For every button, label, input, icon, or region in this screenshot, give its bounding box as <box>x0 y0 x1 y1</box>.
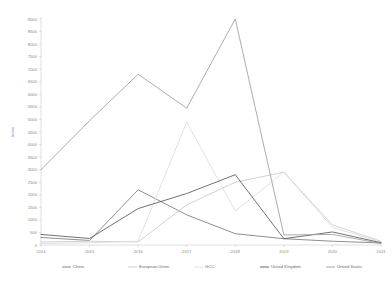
x-axis-tick-labels: 20142015201620172018201920202021 <box>36 249 386 254</box>
y-tick-label: 6000 <box>28 92 38 97</box>
y-tick-label: 7000 <box>28 67 38 72</box>
series-line-european-union <box>41 172 381 242</box>
legend-label-china: China <box>73 264 85 269</box>
x-tick-label: 2020 <box>328 249 338 254</box>
series-line-united-states <box>41 19 381 243</box>
y-tick-label: 2500 <box>28 180 38 185</box>
x-tick-label: 2019 <box>279 249 289 254</box>
y-tick-label: 1500 <box>28 205 38 210</box>
legend-label-gcc: GCC <box>205 264 214 269</box>
x-tick-label: 2017 <box>182 249 192 254</box>
y-tick-label: 3000 <box>28 167 38 172</box>
y-tick-label: 4000 <box>28 142 38 147</box>
y-tick-label: 7500 <box>28 54 38 59</box>
y-tick-label: 8500 <box>28 29 38 34</box>
y-tick-label: 500 <box>30 230 38 235</box>
x-axis-tick-marks <box>41 245 381 247</box>
x-tick-label: 2021 <box>376 249 386 254</box>
x-tick-label: 2015 <box>85 249 95 254</box>
chart-legend: ChinaEuropean UnionGCCUnited KingdomUnit… <box>62 264 362 269</box>
y-axis-title: Index <box>10 126 15 137</box>
y-tick-label: 3500 <box>28 155 38 160</box>
y-tick-label: 0 <box>35 243 38 248</box>
y-tick-label: 5000 <box>28 117 38 122</box>
y-tick-label: 1000 <box>28 217 38 222</box>
series-lines <box>41 19 381 243</box>
y-tick-label: 8000 <box>28 42 38 47</box>
series-line-gcc <box>41 122 381 244</box>
series-line-china <box>41 190 381 243</box>
y-tick-label: 9000 <box>28 17 38 22</box>
y-tick-label: 4500 <box>28 130 38 135</box>
legend-label-united-kingdom: United Kingdom <box>271 264 301 269</box>
x-tick-label: 2018 <box>231 249 241 254</box>
y-axis-tick-labels: 0500100015002000250030003500400045005000… <box>28 17 38 248</box>
y-axis-tick-marks <box>39 19 41 245</box>
x-tick-label: 2014 <box>36 249 46 254</box>
y-tick-label: 2000 <box>28 192 38 197</box>
series-line-united-kingdom <box>41 175 381 243</box>
y-tick-label: 5500 <box>28 104 38 109</box>
legend-label-european-union: European Union <box>139 264 170 269</box>
y-tick-label: 6500 <box>28 79 38 84</box>
chart-canvas: 0500100015002000250030003500400045005000… <box>0 0 392 283</box>
legend-label-united-states: United States <box>337 264 362 269</box>
x-tick-label: 2016 <box>133 249 143 254</box>
line-chart: 0500100015002000250030003500400045005000… <box>0 0 392 283</box>
